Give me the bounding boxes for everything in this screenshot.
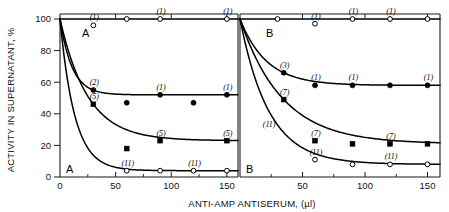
x-axis-tick-label: 100	[163, 180, 179, 191]
data-point-marker	[158, 168, 163, 173]
data-point-label: (5)	[156, 129, 166, 138]
data-point-marker	[124, 17, 129, 22]
data-point-marker	[350, 141, 355, 146]
y-axis-tick-label: 40	[40, 108, 51, 119]
x-axis-tick-label: 50	[110, 180, 121, 191]
data-point-marker	[350, 83, 355, 88]
data-point-marker	[158, 92, 163, 97]
data-point-marker	[425, 162, 430, 167]
x-axis-tick-label: 50	[297, 180, 308, 191]
data-point-label: (1)	[156, 7, 166, 16]
data-point-marker	[275, 17, 280, 22]
data-point-label: (11)	[263, 120, 276, 129]
y-axis-tick-label: 80	[40, 45, 51, 56]
data-point-label: (1)	[349, 7, 359, 16]
data-point-marker	[388, 162, 393, 167]
figure-container: ACTIVITY IN SUPERNATANT, % ANTI-AMP ANTI…	[0, 0, 449, 212]
data-point-label: (1)	[223, 83, 233, 92]
data-point-marker	[388, 141, 393, 146]
series-curve-open-circle-low-series	[240, 19, 440, 164]
data-point-marker	[158, 17, 163, 22]
y-axis-title: ACTIVITY IN SUPERNATANT, %	[5, 27, 16, 172]
x-axis-tick-label: 150	[420, 180, 436, 191]
data-point-label: (1)	[156, 83, 166, 92]
data-point-label: (7)	[386, 132, 396, 141]
x-axis-tick-label: 150	[219, 180, 235, 191]
data-point-marker	[191, 100, 196, 105]
y-axis-tick-label: 60	[40, 77, 51, 88]
data-point-label: (3)	[280, 61, 290, 70]
data-point-marker	[124, 100, 129, 105]
data-point-label: (7)	[280, 88, 290, 97]
data-point-marker	[91, 23, 96, 28]
data-point-label: (7)	[311, 129, 321, 138]
data-point-marker	[224, 138, 229, 143]
data-point-marker	[91, 102, 96, 107]
chart-svg: ACTIVITY IN SUPERNATANT, % ANTI-AMP ANTI…	[0, 0, 449, 212]
data-point-label: (1)	[386, 7, 396, 16]
panel-letter-top-A: A	[82, 27, 90, 39]
data-point-marker	[281, 97, 286, 102]
data-point-marker	[388, 83, 393, 88]
data-point-marker	[388, 17, 393, 22]
data-point-label: (1)	[223, 7, 233, 16]
data-point-label: (5)	[90, 92, 100, 101]
data-point-label: (1)	[90, 13, 100, 22]
data-point-marker	[224, 168, 229, 173]
data-point-label: (1)	[349, 73, 359, 82]
panel-letter-top-B: B	[266, 27, 273, 39]
data-point-label: (11)	[121, 159, 134, 168]
data-point-marker	[124, 168, 129, 173]
data-point-marker	[425, 17, 430, 22]
data-point-marker	[124, 146, 129, 151]
data-point-label: (11)	[385, 152, 398, 161]
x-axis-tick-label: 0	[57, 180, 62, 191]
data-point-marker	[224, 92, 229, 97]
data-point-marker	[281, 70, 286, 75]
data-point-marker	[425, 83, 430, 88]
data-point-label: (5)	[223, 129, 233, 138]
data-point-marker	[425, 141, 430, 146]
x-axis-title: ANTI-AMP ANTISERUM, (µl)	[188, 198, 315, 209]
panel-letter-bottom-B: B	[246, 163, 253, 175]
data-point-label: (1)	[311, 73, 321, 82]
data-point-marker	[350, 162, 355, 167]
data-point-marker	[313, 138, 318, 143]
data-point-marker	[313, 157, 318, 162]
plot-area: 020406080100050100150(1)(1)(1)(2)(1)(1)(…	[35, 7, 440, 191]
data-point-marker	[158, 138, 163, 143]
data-point-label: (11)	[310, 148, 323, 157]
data-point-marker	[191, 168, 196, 173]
panel-letter-bottom-A: A	[66, 163, 74, 175]
data-point-label: (1)	[424, 73, 434, 82]
data-point-marker	[224, 17, 229, 22]
data-point-label: (1)	[311, 12, 321, 21]
panel-B: 50100150(1)(1)(1)(3)(1)(1)(1)(7)(7)(7)(1…	[240, 7, 440, 191]
y-axis-tick-label: 0	[46, 171, 51, 182]
data-point-marker	[313, 21, 318, 26]
y-axis-tick-label: 100	[35, 13, 51, 24]
x-axis-tick-label: 100	[357, 180, 373, 191]
data-point-marker	[313, 83, 318, 88]
data-point-marker	[350, 17, 355, 22]
data-point-label: (2)	[90, 78, 100, 87]
y-axis-tick-label: 20	[40, 140, 51, 151]
panel-A: 050100150(1)(1)(1)(2)(1)(1)(5)(5)(5)(11)…	[57, 7, 238, 191]
data-point-label: (11)	[188, 159, 201, 168]
